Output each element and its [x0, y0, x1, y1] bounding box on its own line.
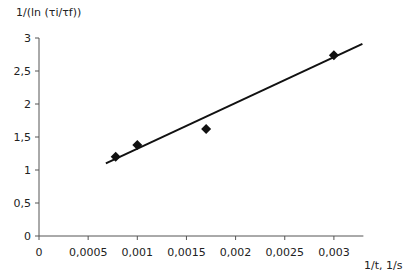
- y-tick-label: 2: [24, 98, 31, 111]
- x-axis-title: 1/t, 1/s: [364, 259, 403, 272]
- x-tick-label: 0,002: [220, 246, 252, 259]
- y-tick-label: 3: [24, 32, 31, 45]
- y-axis-title: 1/(ln (τi/τf)): [16, 6, 81, 19]
- x-tick-label: 0,001: [122, 246, 154, 259]
- fit-line: [106, 44, 363, 163]
- y-tick-label: 1: [24, 164, 31, 177]
- y-tick-label: 0: [24, 230, 31, 243]
- axes: 00,511,522,5300,00050,0010,00150,0020,00…: [14, 32, 364, 259]
- data-point-diamond-icon: [132, 140, 142, 150]
- scatter-chart: 1/(ln (τi/τf)) 00,511,522,5300,00050,001…: [0, 0, 404, 278]
- y-tick-label: 1,5: [14, 131, 32, 144]
- y-tick-label: 0,5: [14, 197, 32, 210]
- x-tick-label: 0,003: [318, 246, 350, 259]
- x-tick-label: 0: [36, 246, 43, 259]
- x-tick-label: 0,0025: [266, 246, 305, 259]
- data-point-diamond-icon: [201, 124, 211, 134]
- y-tick-label: 2,5: [14, 65, 32, 78]
- x-tick-label: 0,0005: [69, 246, 108, 259]
- x-tick-label: 0,0015: [167, 246, 206, 259]
